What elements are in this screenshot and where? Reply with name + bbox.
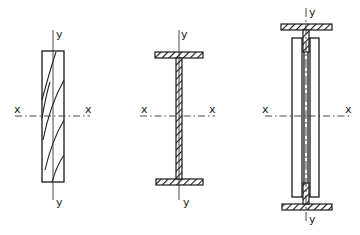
bottom-flange: [282, 204, 332, 210]
figure-solid-section: x x y y: [14, 28, 92, 209]
y-axis-label-bottom: y: [56, 196, 63, 209]
x-axis-label-right: x: [345, 103, 352, 116]
bottom-flange: [156, 179, 203, 185]
cross-section-diagram: x x y y x x y y x x y y: [0, 0, 360, 235]
y-axis-label-bottom: y: [183, 196, 190, 209]
x-axis-label-right: x: [85, 103, 92, 116]
y-axis-label-bottom: y: [309, 213, 316, 226]
figure-built-up-section: x x y y: [262, 6, 352, 226]
top-flange: [281, 24, 332, 30]
side-boards-outline: [292, 38, 319, 197]
figure-i-section: x x y y: [140, 28, 216, 209]
x-axis-label-left: x: [14, 103, 21, 116]
y-axis-label-top: y: [181, 28, 188, 41]
y-axis-label-top: y: [56, 28, 63, 41]
x-axis-label-left: x: [262, 103, 269, 116]
x-axis-label-left: x: [141, 103, 148, 116]
x-axis-label-right: x: [209, 103, 216, 116]
y-axis-label-top: y: [309, 6, 316, 19]
